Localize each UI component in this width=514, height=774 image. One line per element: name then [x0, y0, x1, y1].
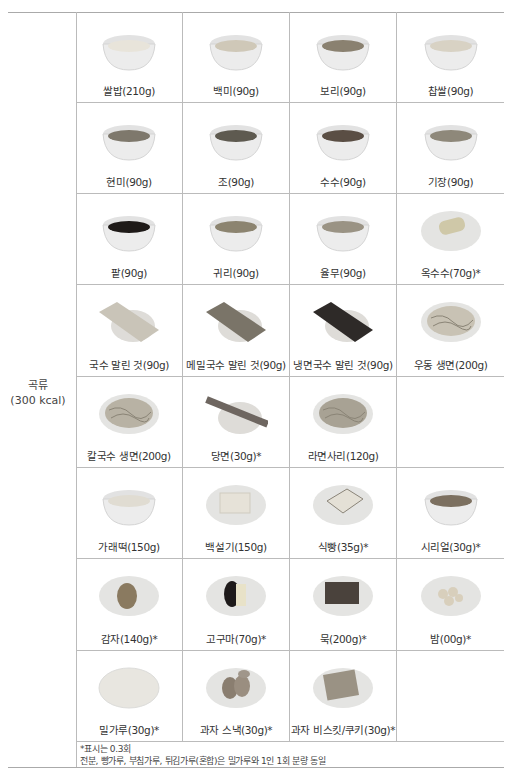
footnotes: *표시는 0.3회 전분, 빵가루, 부침가루, 튀김가루(혼합)은 밀가루와 …	[80, 743, 326, 767]
food-item: 시리얼(30g)*	[397, 467, 504, 558]
food-item-label: 시리얼(30g)*	[397, 539, 504, 554]
food-item-label: 쌀밥(210g)	[76, 83, 182, 98]
food-item: 밀가루(30g)*	[76, 650, 183, 741]
kalguksu-plate-icon	[97, 388, 161, 438]
rice-bowl-icon	[97, 24, 161, 74]
corn-plate-icon	[419, 205, 483, 255]
food-item-label: 고구마(70g)*	[183, 631, 289, 646]
bread-plate-icon	[311, 479, 375, 529]
food-item-label: 귀리(90g)	[183, 265, 289, 280]
food-item: 라면사리(120g)	[290, 376, 397, 467]
food-item-label: 칼국수 생면(200g)	[76, 448, 182, 463]
food-item: 우동 생면(200g)	[397, 284, 504, 376]
food-item: 감자(140g)*	[76, 558, 183, 650]
food-item: 현미(90g)	[76, 102, 183, 193]
food-item-label: 메밀국수 말린 것(90g)	[183, 357, 289, 372]
food-row: 감자(140g)*고구마(70g)*묵(200g)*밤(00g)*	[76, 558, 504, 651]
food-item: 밤(00g)*	[397, 558, 504, 650]
category-name: 곡류	[0, 378, 76, 393]
food-item-label: 현미(90g)	[76, 174, 182, 189]
food-row: 국수 말린 것(90g) 메밀국수 말린 것(90g) 냉면국수 말린 것(90…	[76, 284, 504, 377]
category-kcal: (300 kcal)	[0, 393, 76, 408]
dried-noodles-plate-icon	[97, 296, 161, 346]
food-item-label: 가래떡(150g)	[76, 539, 182, 554]
chestnut-plate-icon	[419, 570, 483, 620]
food-item-label: 과자 비스킷/쿠키(30g)*	[290, 722, 396, 737]
food-item-label: 우동 생면(200g)	[397, 357, 504, 372]
buckwheat-noodles-plate-icon	[204, 296, 268, 346]
food-item-label: 율무(90g)	[290, 265, 396, 280]
food-item: 율무(90g)	[290, 193, 397, 284]
food-item: 고구마(70g)*	[183, 558, 290, 650]
food-item-label: 조(90g)	[183, 174, 289, 189]
food-item-label: 과자 스낵(30g)*	[183, 722, 289, 737]
snack-plate-icon	[204, 662, 268, 712]
food-item: 보리(90g)	[290, 12, 397, 102]
food-item: 귀리(90g)	[183, 193, 290, 284]
food-item-label: 밀가루(30g)*	[76, 722, 182, 737]
ramen-plate-icon	[311, 388, 375, 438]
sweet-potato-plate-icon	[204, 570, 268, 620]
empty-cell	[397, 650, 504, 741]
potato-plate-icon	[97, 570, 161, 620]
food-item-label: 라면사리(120g)	[290, 448, 396, 463]
cereal-bowl-icon	[419, 479, 483, 529]
food-item: 백설기(150g)	[183, 467, 290, 558]
food-item-label: 수수(90g)	[290, 174, 396, 189]
food-item: 냉면국수 말린 것(90g)	[290, 284, 397, 376]
jobs-tears-bowl-icon	[311, 205, 375, 255]
food-row: 밀가루(30g)*과자 스낵(30g)*과자 비스킷/쿠키(30g)*	[76, 650, 504, 742]
glutinous-rice-bowl-icon	[419, 24, 483, 74]
food-item: 국수 말린 것(90g)	[76, 284, 183, 376]
food-item-label: 찹쌀(90g)	[397, 83, 504, 98]
food-item: 당면(30g)*	[183, 376, 290, 467]
food-item: 가래떡(150g)	[76, 467, 183, 558]
oats-bowl-icon	[204, 205, 268, 255]
food-item-label: 기장(90g)	[397, 174, 504, 189]
food-item: 식빵(35g)*	[290, 467, 397, 558]
food-row: 쌀밥(210g) 백미(90g) 보리(90g) 찹쌀(90g)	[76, 12, 504, 103]
food-row: 칼국수 생면(200g) 당면(30g)* 라면사리(120g)	[76, 376, 504, 468]
food-item: 쌀밥(210g)	[76, 12, 183, 102]
food-item-label: 보리(90g)	[290, 83, 396, 98]
glass-noodles-plate-icon	[204, 388, 268, 438]
brown-rice-bowl-icon	[97, 114, 161, 164]
empty-cell	[397, 376, 504, 467]
food-item-label: 백미(90g)	[183, 83, 289, 98]
food-item-label: 냉면국수 말린 것(90g)	[290, 357, 396, 372]
food-item-label: 국수 말린 것(90g)	[76, 357, 182, 372]
food-item-label: 당면(30g)*	[183, 448, 289, 463]
food-item: 과자 스낵(30g)*	[183, 650, 290, 741]
category-label: 곡류 (300 kcal)	[0, 378, 76, 408]
food-item: 칼국수 생면(200g)	[76, 376, 183, 467]
udon-plate-icon	[419, 296, 483, 346]
food-item-label: 밤(00g)*	[397, 631, 504, 646]
white-rice-bowl-icon	[204, 24, 268, 74]
food-row: 팥(90g) 귀리(90g) 율무(90g)옥수수(70g)*	[76, 193, 504, 285]
proso-millet-bowl-icon	[419, 114, 483, 164]
flour-plate-icon	[97, 662, 161, 712]
food-item: 수수(90g)	[290, 102, 397, 193]
red-bean-bowl-icon	[97, 205, 161, 255]
jelly-plate-icon	[311, 570, 375, 620]
biscuit-plate-icon	[311, 662, 375, 712]
food-item: 과자 비스킷/쿠키(30g)*	[290, 650, 397, 741]
footnote-flour: 전분, 빵가루, 부침가루, 튀김가루(혼합)은 밀가루와 1인 1회 분량 동…	[80, 755, 326, 767]
food-item: 백미(90g)	[183, 12, 290, 102]
food-item-label: 옥수수(70g)*	[397, 265, 504, 280]
rice-cake-bowl-icon	[97, 479, 161, 529]
food-item: 옥수수(70g)*	[397, 193, 504, 284]
food-item: 조(90g)	[183, 102, 290, 193]
food-item-label: 식빵(35g)*	[290, 539, 396, 554]
sorghum-bowl-icon	[311, 114, 375, 164]
food-item: 기장(90g)	[397, 102, 504, 193]
food-row: 현미(90g) 조(90g) 수수(90g) 기장(90g)	[76, 102, 504, 194]
food-item-label: 묵(200g)*	[290, 631, 396, 646]
table-bottom-rule	[8, 767, 504, 768]
food-item: 팥(90g)	[76, 193, 183, 284]
steamed-rice-cake-plate-icon	[204, 479, 268, 529]
barley-bowl-icon	[311, 24, 375, 74]
food-row: 가래떡(150g)백설기(150g)식빵(35g)* 시리얼(30g)*	[76, 467, 504, 559]
food-item: 메밀국수 말린 것(90g)	[183, 284, 290, 376]
millet-bowl-icon	[204, 114, 268, 164]
